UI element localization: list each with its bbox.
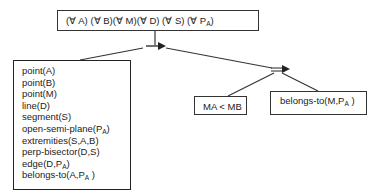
quantifier-box: (∀ A) (∀ B)(∀ M)(∀ D) (∀ S) (∀ PA) <box>57 10 259 31</box>
quantifier-b: (∀ B) <box>90 15 112 26</box>
conclusion-belongs-box: belongs-to(M,PA ) <box>270 91 367 115</box>
hypothesis-item: open-semi-plane(PA) <box>22 123 130 135</box>
conclusion-belongs-text: belongs-to(M,PA ) <box>280 95 355 106</box>
quantifier-s: (∀ S) <box>162 15 184 26</box>
hypothesis-item: extremities(S,A,B) <box>22 135 130 147</box>
hypothesis-item: perp-bisector(D,S) <box>22 146 130 158</box>
hypothesis-item: belongs-to(A,PA ) <box>22 169 130 181</box>
quantifier-pa: (∀ PA) <box>187 15 214 26</box>
hypothesis-item: point(A) <box>22 65 130 77</box>
quantifier-a: (∀ A) <box>66 15 88 26</box>
quantifier-d: (∀ D) <box>137 15 160 26</box>
hypothesis-item: point(M) <box>22 88 130 100</box>
hypothesis-item: edge(D,PA) <box>22 158 130 170</box>
quantifier-m: (∀ M) <box>113 15 137 26</box>
hypothesis-item: point(B) <box>22 77 130 89</box>
conclusion-inequality-box: MA < MB <box>194 96 247 115</box>
hypothesis-item: segment(S) <box>22 111 130 123</box>
hypothesis-item: line(D) <box>22 100 130 112</box>
conclusion-inequality-text: MA < MB <box>203 101 242 112</box>
hypotheses-box: point(A) point(B) point(M) line(D) segme… <box>13 60 131 190</box>
